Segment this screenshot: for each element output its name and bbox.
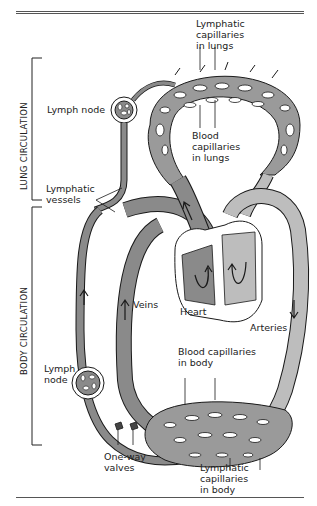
label-lymphatic-capillaries-body: Lymphatic capillaries in body — [200, 462, 249, 495]
label-veins: Veins — [133, 299, 158, 310]
label-arteries: Arteries — [250, 322, 287, 333]
one-way-valves — [115, 422, 138, 430]
lymphatic-vessel-upper — [95, 123, 124, 210]
circulation-diagram — [0, 0, 317, 506]
body-circulation-label: BODY CIRCULATION — [19, 287, 29, 375]
label-one-way-valves: One-way valves — [104, 451, 146, 473]
lung-circulation-bracket — [32, 58, 42, 200]
body-capillary-bed — [145, 402, 292, 467]
lung-capillary-bed — [148, 62, 300, 185]
label-lymphatic-capillaries-lungs: Lymphatic capillaries in lungs — [196, 18, 245, 51]
label-blood-capillaries-body: Blood capillaries in body — [178, 346, 256, 368]
label-lymphatic-vessels: Lymphatic vessels — [46, 183, 95, 205]
label-lymph-node-bottom: Lymph node — [44, 363, 75, 385]
label-heart: Heart — [180, 306, 206, 317]
lung-circulation-label: LUNG CIRCULATION — [19, 102, 29, 190]
body-circulation-bracket — [32, 207, 42, 445]
label-blood-capillaries-lungs: Blood capillaries in lungs — [192, 130, 240, 163]
lymph-node-bottom — [72, 367, 104, 399]
label-lymph-node-top: Lymph node — [47, 104, 105, 115]
